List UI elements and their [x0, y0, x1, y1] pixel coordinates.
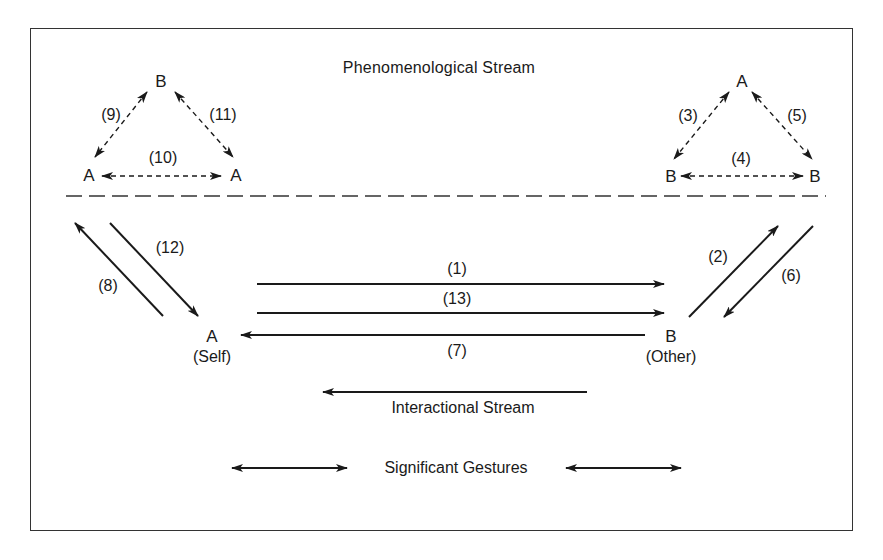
self-diagonals [75, 223, 198, 316]
self-node-letter: A [206, 328, 217, 345]
edge-11 [175, 92, 233, 157]
left-triangle-top-node: B [155, 73, 166, 90]
edge-2 [689, 226, 778, 317]
edge-label-2: (2) [708, 249, 728, 265]
left-triangle-bottom-left-node: A [83, 167, 94, 184]
edge-8 [75, 223, 163, 316]
edge-label-3: (3) [678, 108, 698, 124]
other-node-letter: B [665, 328, 676, 345]
edge-label-1: (1) [447, 261, 467, 277]
edge-label-6: (6) [781, 268, 801, 284]
left-triangle-bottom-right-node: A [230, 167, 241, 184]
right-triangle-top-node: A [736, 73, 747, 90]
phenomenological-stream-title: Phenomenological Stream [343, 60, 535, 76]
edge-label-8: (8) [98, 278, 118, 294]
edge-label-11: (11) [209, 107, 236, 123]
self-node-caption: (Self) [193, 349, 231, 365]
other-node-caption: (Other) [646, 349, 697, 365]
right-triangle-bottom-right-node: B [809, 168, 820, 185]
edge-label-13: (13) [443, 291, 471, 307]
legend-significant-gestures: Significant Gestures [384, 460, 527, 476]
edge-label-9: (9) [101, 107, 121, 123]
edge-label-12: (12) [156, 240, 184, 256]
edge-3 [674, 92, 729, 159]
diagram-canvas [0, 0, 883, 560]
legend-interactional-stream: Interactional Stream [391, 400, 534, 416]
edge-label-5: (5) [787, 108, 807, 124]
edge-5 [752, 92, 812, 159]
edge-label-10: (10) [149, 150, 177, 166]
edge-label-4: (4) [731, 151, 751, 167]
edge-12 [110, 223, 198, 316]
edge-label-7: (7) [447, 343, 467, 359]
right-triangle-bottom-left-node: B [665, 168, 676, 185]
edge-9 [95, 92, 147, 157]
